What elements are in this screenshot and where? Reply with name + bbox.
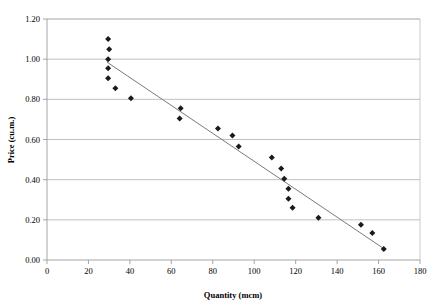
y-tick-labels: 0.000.200.400.600.801.001.20	[25, 14, 40, 265]
x-tick-labels: 020406080100120140160180	[45, 266, 427, 276]
y-tick-label: 0.20	[25, 215, 40, 225]
scatter-chart: 020406080100120140160180 0.000.200.400.6…	[0, 0, 441, 308]
x-tick-label: 100	[248, 266, 261, 276]
x-axis-ticks	[47, 260, 420, 264]
y-tick-label: 0.40	[25, 175, 40, 185]
x-tick-label: 180	[414, 266, 427, 276]
x-tick-label: 80	[209, 266, 218, 276]
x-tick-label: 40	[126, 266, 135, 276]
y-axis-title: Price (cu.m.)	[6, 117, 16, 164]
y-axis-ticks	[43, 19, 47, 260]
x-tick-label: 160	[372, 266, 385, 276]
y-tick-label: 0.60	[25, 135, 40, 145]
x-tick-label: 120	[289, 266, 302, 276]
x-tick-label: 20	[84, 266, 93, 276]
y-tick-label: 1.00	[25, 54, 40, 64]
y-tick-label: 1.20	[25, 14, 40, 24]
y-tick-label: 0.00	[25, 255, 40, 265]
x-tick-label: 140	[331, 266, 344, 276]
x-axis-title: Quantity (mcm)	[204, 290, 262, 300]
y-tick-label: 0.80	[25, 94, 40, 104]
chart-canvas: 020406080100120140160180 0.000.200.400.6…	[0, 0, 441, 308]
x-tick-label: 60	[167, 266, 176, 276]
x-tick-label: 0	[45, 266, 49, 276]
